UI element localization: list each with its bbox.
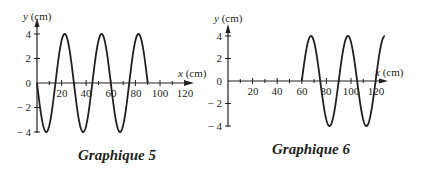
graph-5: 4 2 0 − 2 − 4 20 40 60 80 100 120 y (cm)… — [17, 10, 207, 138]
x-tick-label: 60 — [297, 85, 309, 97]
y-tick-label: − 2 — [208, 97, 222, 109]
x-tick-label: 120 — [368, 85, 385, 97]
y-tick-label: − 2 — [17, 101, 31, 113]
graph-6-caption: Graphique 6 — [272, 141, 350, 158]
y-tick-label: − 4 — [17, 126, 32, 138]
y-tick-label: 4 — [217, 30, 223, 42]
graph-5-caption: Graphique 5 — [78, 147, 156, 164]
y-tick-label: 0 — [217, 75, 223, 87]
y-tick-label: − 4 — [208, 120, 223, 132]
figure-canvas: 4 2 0 − 2 − 4 20 40 60 80 100 120 y (cm)… — [0, 0, 421, 173]
y-axis-label: y (cm) — [22, 10, 52, 23]
y-axis-arrow-icon — [226, 24, 231, 33]
x-axis-arrow-icon — [185, 81, 194, 86]
y-tick-label: 2 — [26, 52, 32, 64]
y-tick-label: 2 — [217, 52, 223, 64]
x-tick-label: 100 — [152, 87, 169, 99]
x-tick-label: 80 — [131, 87, 143, 99]
x-axis-arrow-icon — [379, 79, 388, 84]
graph-6: 4 2 0 − 2 − 4 20 40 60 80 100 120 y (cm)… — [208, 12, 404, 132]
y-tick-label: 0 — [26, 77, 32, 89]
x-axis-label: x (cm) — [177, 67, 207, 80]
y-axis-label: y (cm) — [213, 12, 243, 25]
x-axis-label: x (cm) — [374, 66, 404, 79]
x-tick-label: 40 — [272, 85, 284, 97]
x-tick-label: 20 — [248, 85, 260, 97]
x-tick-label: 20 — [57, 87, 69, 99]
y-tick-label: 4 — [26, 28, 32, 40]
x-tick-label: 120 — [177, 87, 194, 99]
